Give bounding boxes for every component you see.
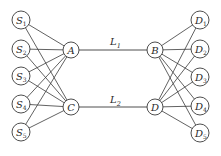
node-s3: S3 xyxy=(12,67,30,85)
links-layer: L1L2 xyxy=(71,36,155,108)
node-d1: D1 xyxy=(191,11,209,29)
edge-b-d5 xyxy=(155,50,200,133)
node-d4: D4 xyxy=(191,97,209,115)
node-label: B xyxy=(150,45,158,56)
node-d3: D3 xyxy=(191,68,209,86)
link-label-l1: L1 xyxy=(109,36,121,50)
node-d2: D2 xyxy=(191,40,209,58)
node-label: D xyxy=(150,102,159,113)
link-label-l2: L2 xyxy=(109,94,121,108)
network-diagram: L1L2 S1S2S3S4S5ACBDD1D2D3D4D5 xyxy=(0,0,221,156)
node-s1: S1 xyxy=(12,11,30,29)
edge-d-d1 xyxy=(155,20,200,107)
node-label: A xyxy=(66,45,74,56)
node-s2: S2 xyxy=(12,40,30,58)
node-c: C xyxy=(63,99,79,115)
nodes-layer: S1S2S3S4S5ACBDD1D2D3D4D5 xyxy=(12,11,209,142)
node-d5: D5 xyxy=(191,124,209,142)
node-a: A xyxy=(63,42,79,58)
node-b: B xyxy=(147,42,163,58)
node-s4: S4 xyxy=(12,95,30,113)
edge-s1-c xyxy=(21,20,71,107)
node-label: C xyxy=(67,102,75,113)
node-s5: S5 xyxy=(12,123,30,141)
node-d: D xyxy=(147,99,163,115)
